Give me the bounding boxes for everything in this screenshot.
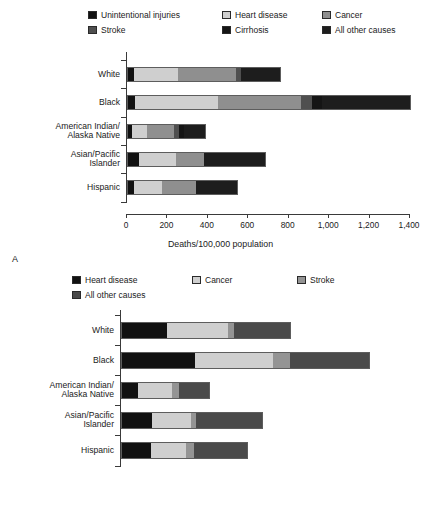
legend-swatch-icon: [72, 276, 81, 284]
panel-a-bar-segment[interactable]: [301, 95, 311, 110]
panel-a-bar-segment[interactable]: [204, 152, 266, 167]
panel-b-bar-row[interactable]: [121, 382, 210, 399]
panel-b-bar-row[interactable]: [121, 322, 291, 339]
legend-swatch-icon: [322, 26, 331, 34]
panel-b-bar-segment[interactable]: [167, 322, 228, 339]
panel-b-bar-segment[interactable]: [195, 352, 273, 369]
panel-a-bar-segment[interactable]: [132, 124, 147, 139]
panel-b-bar-segment[interactable]: [121, 352, 195, 369]
panel-b-y-tick: [115, 435, 120, 436]
panel-a-x-tick-label: 0: [124, 220, 129, 230]
panel-a-legend-item[interactable]: Cancer: [322, 10, 422, 20]
panel-a-bar-row[interactable]: [127, 95, 411, 110]
panel-a-bar-segment[interactable]: [147, 124, 174, 139]
legend-swatch-icon: [88, 11, 97, 19]
panel-a-bar-segment[interactable]: [162, 180, 195, 195]
panel-b-bar-segment[interactable]: [196, 412, 263, 429]
panel-b-legend-item[interactable]: All other causes: [72, 290, 192, 300]
panel-a-y-tick: [121, 88, 126, 89]
bars-panel-b: [0, 310, 441, 480]
panel-a-bar-segment[interactable]: [196, 180, 238, 195]
panel-a-bar-segment[interactable]: [139, 152, 176, 167]
panel-a-y-tick: [121, 202, 126, 203]
plot-area-panel-a: WhiteBlackAmerican Indian/ Alaska Native…: [0, 52, 441, 217]
panel-b-bar-segment[interactable]: [179, 382, 210, 399]
panel-a-legend-item[interactable]: All other causes: [322, 25, 422, 35]
legend-swatch-icon: [222, 26, 231, 34]
legend-swatch-icon: [72, 291, 81, 299]
x-axis-title-panel-a: Deaths/100,000 population: [0, 239, 441, 249]
panel-a-legend-item[interactable]: Unintentional injuries: [88, 10, 222, 20]
panel-b-legend-item[interactable]: Cancer: [192, 275, 297, 285]
panel-a-bar-row[interactable]: [127, 152, 266, 167]
panel-a-x-tick-label: 800: [281, 220, 295, 230]
panel-a-bar-segment[interactable]: [184, 124, 206, 139]
panel-a-bar-row[interactable]: [127, 124, 206, 139]
panel-a-y-tick: [121, 173, 126, 174]
panel-b-bar-segment[interactable]: [121, 322, 167, 339]
panel-b-bar-segment[interactable]: [172, 382, 179, 399]
panel-b-y-tick: [115, 466, 120, 467]
panel-a-legend-item[interactable]: Stroke: [88, 25, 222, 35]
panel-a-bar-segment[interactable]: [127, 67, 134, 82]
panel-a-bar-row[interactable]: [127, 67, 281, 82]
legend-swatch-icon: [322, 11, 331, 19]
panel-a-y-tick: [121, 145, 126, 146]
panel-b-bar-segment[interactable]: [138, 382, 172, 399]
panel-a-x-tick-label: 400: [200, 220, 214, 230]
panel-a-x-tick-label: 600: [240, 220, 254, 230]
bars-panel-a: [0, 52, 441, 217]
panel-a-legend-item[interactable]: Heart disease: [222, 10, 322, 20]
panel-a-bar-row[interactable]: [127, 180, 238, 195]
panel-a-bar-segment[interactable]: [134, 67, 177, 82]
panel-a-bar-segment[interactable]: [178, 67, 237, 82]
panel-b-y-tick: [115, 315, 120, 316]
panel-a-y-tick: [121, 117, 126, 118]
panel-a-chart: Unintentional injuriesHeart diseaseCance…: [0, 0, 441, 265]
panel-a-bar-segment[interactable]: [218, 95, 301, 110]
panel-a-x-tick: [288, 214, 289, 218]
panel-a-x-tick: [126, 214, 127, 218]
panel-b-y-tick: [115, 375, 120, 376]
panel-b-bar-row[interactable]: [121, 412, 263, 429]
panel-b-bar-row[interactable]: [121, 352, 370, 369]
panel-a-x-tick: [369, 214, 370, 218]
panel-b-bar-segment[interactable]: [121, 412, 152, 429]
panel-a-x-tick: [166, 214, 167, 218]
legend-swatch-icon: [192, 276, 201, 284]
panel-a-legend-item[interactable]: Cirrhosis: [222, 25, 322, 35]
panel-b-bar-row[interactable]: [121, 442, 248, 459]
panel-a-bar-segment[interactable]: [312, 95, 322, 110]
panel-a-bar-segment[interactable]: [322, 95, 411, 110]
panel-b-bar-segment[interactable]: [186, 442, 194, 459]
panel-b-legend-item[interactable]: Heart disease: [72, 275, 192, 285]
panel-b-bar-segment[interactable]: [273, 352, 290, 369]
panel-b-bar-segment[interactable]: [151, 442, 186, 459]
panel-a-bar-segment[interactable]: [134, 180, 162, 195]
panel-a-x-tick: [247, 214, 248, 218]
panel-b-bar-segment[interactable]: [152, 412, 191, 429]
panel-a-bar-segment[interactable]: [176, 152, 205, 167]
x-axis-panel-a: 02004006008001,0001,2001,400: [126, 214, 409, 215]
panel-b-legend-item[interactable]: Stroke: [297, 275, 392, 285]
panel-a-bar-segment[interactable]: [127, 180, 134, 195]
legend-label: Heart disease: [235, 10, 287, 20]
panel-a-x-tick: [328, 214, 329, 218]
panel-a-bar-segment[interactable]: [241, 67, 280, 82]
panel-b-bar-segment[interactable]: [234, 322, 291, 339]
panel-a-bar-segment[interactable]: [127, 152, 139, 167]
panel-a-x-tick-label: 1,000: [318, 220, 339, 230]
panel-b-bar-segment[interactable]: [290, 352, 369, 369]
legend-label: Cirrhosis: [235, 25, 269, 35]
legend-panel-a: Unintentional injuriesHeart diseaseCance…: [88, 10, 433, 40]
legend-swatch-icon: [297, 276, 306, 284]
legend-label: All other causes: [85, 290, 145, 300]
panel-a-bar-segment[interactable]: [127, 95, 135, 110]
legend-swatch-icon: [88, 26, 97, 34]
plot-area-panel-b: WhiteBlackAmerican Indian/ Alaska Native…: [0, 310, 441, 480]
legend-label: Unintentional injuries: [101, 10, 180, 20]
panel-a-bar-segment[interactable]: [135, 95, 217, 110]
panel-b-bar-segment[interactable]: [121, 442, 151, 459]
panel-b-bar-segment[interactable]: [121, 382, 138, 399]
panel-b-bar-segment[interactable]: [194, 442, 248, 459]
